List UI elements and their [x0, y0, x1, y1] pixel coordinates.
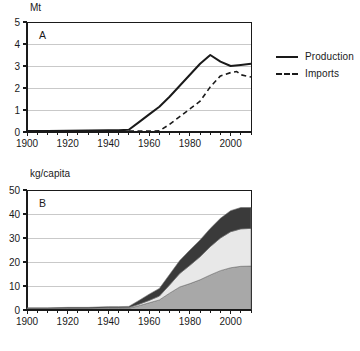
svg-text:3: 3	[14, 61, 20, 72]
svg-text:1940: 1940	[97, 316, 120, 327]
panel-a-unit-label: Mt	[30, 2, 41, 13]
svg-text:0: 0	[14, 305, 20, 316]
svg-text:1960: 1960	[138, 138, 161, 149]
svg-text:B: B	[39, 197, 46, 209]
svg-text:50: 50	[9, 185, 21, 196]
svg-text:0: 0	[14, 127, 20, 138]
solid-line-icon	[276, 51, 298, 63]
figure-two-panel-chart: Mt A012345190019201940196019802000 Produ…	[0, 0, 360, 351]
svg-text:2000: 2000	[220, 138, 243, 149]
svg-text:1920: 1920	[57, 316, 80, 327]
svg-text:1960: 1960	[138, 316, 161, 327]
svg-text:1940: 1940	[97, 138, 120, 149]
svg-text:1900: 1900	[16, 138, 39, 149]
panel-a-legend: Production Imports	[276, 48, 354, 82]
panel-a-plot: A012345190019201940196019802000	[0, 14, 276, 164]
svg-text:1920: 1920	[57, 138, 80, 149]
legend-item-production: Production	[276, 48, 354, 65]
svg-text:40: 40	[9, 209, 21, 220]
panel-b: kg/capita B01020304050190019201940196019…	[0, 168, 360, 351]
legend-label-imports: Imports	[305, 68, 339, 80]
panel-b-plot: B01020304050190019201940196019802000	[0, 180, 276, 340]
legend-label-production: Production	[305, 51, 354, 63]
panel-a: Mt A012345190019201940196019802000 Produ…	[0, 0, 360, 168]
svg-text:1980: 1980	[179, 316, 202, 327]
svg-text:A: A	[39, 29, 46, 41]
svg-text:2: 2	[14, 83, 20, 94]
svg-text:1900: 1900	[16, 316, 39, 327]
svg-text:1980: 1980	[179, 138, 202, 149]
dashed-line-icon	[276, 68, 298, 80]
svg-text:1: 1	[14, 105, 20, 116]
svg-text:20: 20	[9, 257, 21, 268]
svg-text:5: 5	[14, 17, 20, 28]
legend-item-imports: Imports	[276, 65, 354, 82]
svg-text:4: 4	[14, 39, 20, 50]
panel-b-unit-label: kg/capita	[30, 168, 70, 179]
svg-text:2000: 2000	[220, 316, 243, 327]
svg-text:10: 10	[9, 281, 21, 292]
svg-text:30: 30	[9, 233, 21, 244]
